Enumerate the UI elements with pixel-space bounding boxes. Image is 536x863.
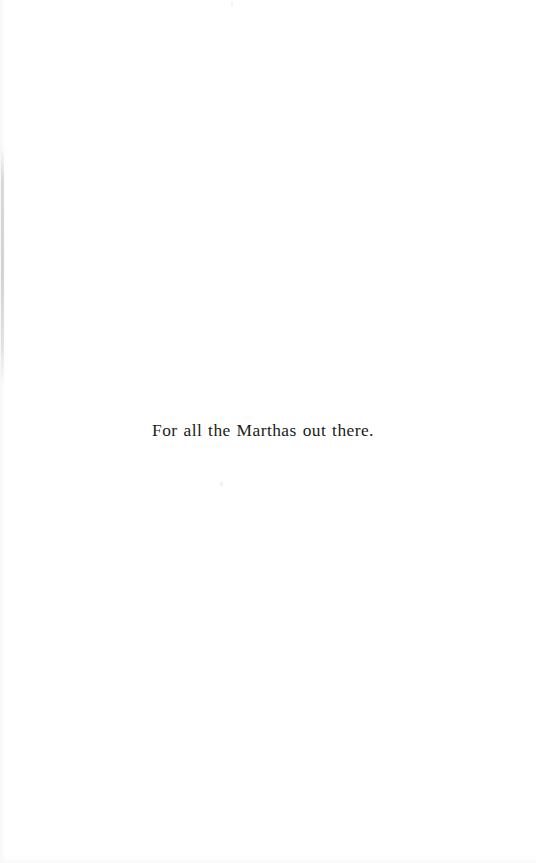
dedication-block: For all the Marthas out there. (0, 420, 536, 440)
dedication-text: For all the Marthas out there. (152, 420, 374, 440)
scan-speck-top-margin (231, 2, 233, 7)
scan-gutter-shadow-artifact (1, 148, 4, 384)
scan-speck-below-text (220, 482, 223, 486)
book-page: For all the Marthas out there. (0, 0, 536, 863)
page-bottom-trim-edge (0, 856, 536, 863)
